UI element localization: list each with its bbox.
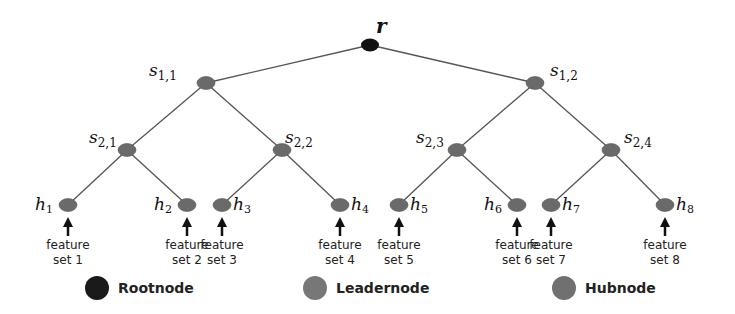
arrow-up-icon xyxy=(660,217,670,236)
edge-s12-s24 xyxy=(535,83,611,150)
hub-label-h1: h1 xyxy=(35,194,53,216)
hub-node-h4 xyxy=(331,199,349,212)
hub-label-h7: h7 xyxy=(562,194,580,216)
legend-item-leadernode: Leadernode xyxy=(303,276,429,300)
leader-node-s21 xyxy=(118,144,136,157)
arrow-up-icon xyxy=(335,217,345,236)
feature-label-h3: feature xyxy=(200,238,243,252)
leader-label-s23: s2,3 xyxy=(416,127,444,150)
leader-node-s24 xyxy=(602,144,620,157)
edge-s11-s21 xyxy=(127,83,206,150)
root-node xyxy=(361,39,379,52)
feature-label-h8: feature xyxy=(643,238,686,252)
feature-set-h7: set 7 xyxy=(536,253,566,267)
feature-set-h2: set 2 xyxy=(172,253,202,267)
hub-node-h8 xyxy=(656,199,674,212)
edge-s24-h7 xyxy=(551,150,611,205)
hub-node-h3 xyxy=(213,199,231,212)
legend-item-hubnode: Hubnode xyxy=(552,276,656,300)
hub-label-h6: h6 xyxy=(484,194,502,216)
hub-node-h5 xyxy=(390,199,408,212)
arrow-up-icon xyxy=(217,217,227,236)
edge-s24-h8 xyxy=(611,150,665,205)
feature-set-h3: set 3 xyxy=(207,253,237,267)
hub-node-h6 xyxy=(508,199,526,212)
hub-label-h8: h8 xyxy=(676,194,694,216)
edge-s22-h3 xyxy=(222,150,282,205)
feature-set-h5: set 5 xyxy=(384,253,414,267)
legend-label: Hubnode xyxy=(585,280,656,296)
feature-set-h6: set 6 xyxy=(502,253,532,267)
leader-label-s11: s1,1 xyxy=(149,60,177,83)
legend: RootnodeLeadernodeHubnode xyxy=(85,276,656,300)
hub-label-h2: h2 xyxy=(154,194,172,216)
hub-label-h3: h3 xyxy=(233,194,251,216)
feature-set-h4: set 4 xyxy=(325,253,355,267)
legend-label: Rootnode xyxy=(118,280,194,296)
leader-node-s23 xyxy=(448,144,466,157)
feature-inputs: featureset 1featureset 2featureset 3feat… xyxy=(46,217,686,267)
hub-node-h7 xyxy=(542,199,560,212)
edge-s22-h4 xyxy=(282,150,340,205)
hub-node-h2 xyxy=(178,199,196,212)
feature-set-h1: set 1 xyxy=(53,253,83,267)
hub-node-h1 xyxy=(59,199,77,212)
feature-label-h1: feature xyxy=(46,238,89,252)
feature-label-h5: feature xyxy=(377,238,420,252)
arrow-up-icon xyxy=(63,217,73,236)
leader-label-s21: s2,1 xyxy=(89,127,117,150)
edge-s12-s23 xyxy=(457,83,535,150)
leader-node-s11 xyxy=(197,77,215,90)
feature-set-h8: set 8 xyxy=(650,253,680,267)
tree-diagram: rs1,1s1,2s2,1s2,2s2,3s2,4h1h2h3h4h5h6h7h… xyxy=(0,0,735,314)
arrow-up-icon xyxy=(546,217,556,236)
edge-s23-h5 xyxy=(399,150,457,205)
root-label: r xyxy=(376,14,388,38)
edge-r-s12 xyxy=(370,45,535,83)
leader-label-s12: s1,2 xyxy=(550,60,578,83)
feature-label-h4: feature xyxy=(318,238,361,252)
legend-swatch-icon xyxy=(303,276,327,300)
edge-s21-h1 xyxy=(68,150,127,205)
arrow-up-icon xyxy=(394,217,404,236)
legend-swatch-icon xyxy=(85,276,109,300)
leader-node-s12 xyxy=(526,77,544,90)
leader-label-s24: s2,4 xyxy=(624,127,652,150)
edge-s11-s22 xyxy=(206,83,282,150)
arrow-up-icon xyxy=(512,217,522,236)
hub-label-h4: h4 xyxy=(351,194,369,216)
legend-swatch-icon xyxy=(552,276,576,300)
leader-label-s22: s2,2 xyxy=(285,127,313,150)
legend-item-rootnode: Rootnode xyxy=(85,276,194,300)
arrow-up-icon xyxy=(182,217,192,236)
feature-label-h7: feature xyxy=(529,238,572,252)
hub-label-h5: h5 xyxy=(410,194,428,216)
legend-label: Leadernode xyxy=(336,280,429,296)
edge-r-s11 xyxy=(206,45,370,83)
